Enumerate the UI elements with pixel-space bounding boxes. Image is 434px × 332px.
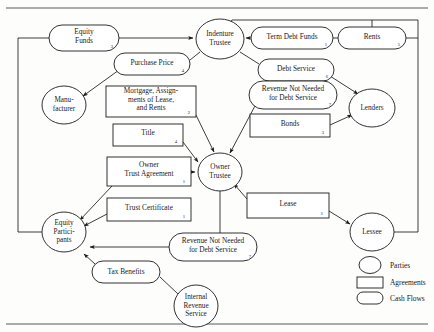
leveraged-lease-diagram: IndentureTrusteeManu-facturerLendersOwne… [0, 0, 434, 332]
cash-flow-revenue-not-needed-top-label: Revenue Not Needed [262, 84, 325, 93]
legend-agreements-icon [357, 277, 383, 288]
party-indenture-trustee-label: Trustee [209, 39, 230, 47]
connector-tax-benefits-to-participants [84, 254, 95, 264]
party-manufacturer-label: facturer [53, 105, 76, 113]
connector-lease-to-lessee [329, 211, 350, 224]
agreement-owner-trust-agreement-label: Owner [139, 160, 159, 169]
legend-agreements-label: Agreements [390, 278, 426, 287]
agreement-lease-label: Lease [279, 199, 296, 208]
legend-cash-flows-label: Cash Flows [390, 294, 425, 303]
agreement-mortgage-assignments-label: ments of Lease, [128, 95, 174, 104]
legend: Parties Agreements Cash Flows [357, 257, 426, 305]
party-equity-participants-label: Partici- [53, 228, 75, 236]
agreement-title-label: Title [141, 128, 155, 137]
cash-flow-tax-benefits-label: Tax Benefits [108, 267, 145, 276]
cash-flow-equity-funds-label: Funds [75, 36, 93, 45]
connector-irs-to-tax-benefits [160, 277, 178, 294]
cash-flow-term-debt-funds-label: Term Debt Funds [267, 32, 318, 41]
diagram-page: IndentureTrusteeManu-facturerLendersOwne… [0, 0, 434, 332]
connector-trust-certificate-to-participants [84, 214, 107, 226]
connector-lease-to-owner-trustee [234, 184, 247, 199]
agreement-bonds-label: Bonds [281, 119, 300, 128]
legend-parties-icon [359, 257, 381, 274]
cash-flow-equity-funds-label: Equity [74, 27, 94, 36]
cash-flow-revenue-not-needed-top-label: for Debt Service [269, 93, 317, 102]
connector-equity-funds-to-participants [18, 38, 49, 232]
connector-indenture-to-debt-service [240, 52, 259, 64]
cash-flow-purchase-price-label: Purchase Price [130, 58, 173, 67]
connector-bonds-to-lenders [330, 115, 352, 125]
legend-parties-label: Parties [390, 261, 410, 270]
party-internal-revenue-service-label: Service [185, 310, 207, 318]
agreement-trust-certificate-label: Trust Certificate [125, 203, 173, 212]
agreement-mortgage-assignments-label: Mortgage, Assign- [124, 86, 179, 95]
party-internal-revenue-service-label: Internal [185, 293, 207, 301]
party-owner-trustee-label: Trustee [209, 172, 230, 180]
cash-flow-rents-label: Rents [364, 32, 381, 41]
connector-indenture-to-purchase [190, 52, 200, 60]
party-manufacturer-label: Manu- [54, 96, 74, 104]
party-owner-trustee-label: Owner [210, 163, 230, 171]
party-equity-participants-label: pants [56, 236, 71, 244]
cash-flow-revenue-not-needed-bottom-label: for Debt Service [189, 245, 237, 254]
cash-flow-debt-service-label: Debt Service [277, 64, 315, 73]
cash-flow-revenue-not-needed-bottom-label: Revenue Not Needed [182, 236, 245, 245]
party-equity-participants-label: Equity [54, 219, 74, 227]
party-indenture-trustee-label: Indenture [206, 30, 234, 38]
agreement-mortgage-assignments-label: and Rents [137, 103, 166, 112]
connector-mortgage-to-owner-trustee [196, 115, 214, 152]
party-internal-revenue-service-label: Revenue [183, 302, 208, 310]
party-lenders-label: Lenders [360, 104, 383, 112]
legend-cash-flows-icon [357, 292, 383, 304]
agreement-owner-trust-agreement-label: Trust Agreement [125, 169, 174, 178]
party-lessee-label: Lessee [362, 228, 382, 236]
